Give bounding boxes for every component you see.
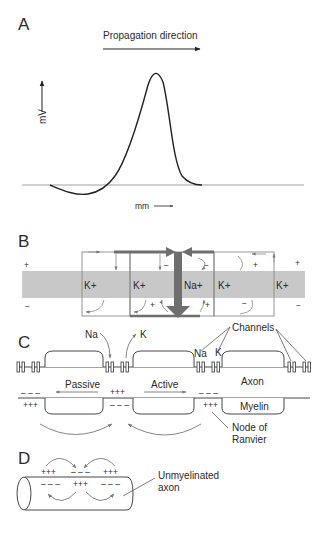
passive-label: Passive: [65, 379, 100, 390]
myelin-sheath-top: [45, 351, 103, 367]
charge-sign: −: [296, 300, 301, 310]
charge-sign: +++: [110, 387, 125, 397]
ion-label-k: K+: [276, 280, 289, 291]
ion-label-k: K+: [84, 280, 97, 291]
ion-label-na: Na+: [184, 280, 203, 291]
myelin-sheath-bottom: [133, 398, 194, 414]
propagation-direction-label: Propagation direction: [103, 30, 198, 41]
myelin-sheath-top: [133, 351, 194, 367]
myelin-sheath-top: [222, 351, 284, 367]
k-label: K: [140, 329, 147, 340]
ion-label-k: K+: [133, 280, 146, 291]
k-channel-label: K: [215, 347, 222, 358]
ion-label-k: K+: [218, 280, 231, 291]
charge-sign: −: [25, 301, 30, 311]
unmyelinated-label-line1: Unmyelinated: [158, 470, 219, 481]
myelin-label: Myelin: [240, 401, 269, 412]
current-flow-arrow-icon: [128, 424, 201, 435]
membrane-band: [22, 271, 305, 298]
charge-sign: – – –: [110, 400, 129, 410]
curved-arrow-icon: [134, 300, 146, 312]
charge-sign: – – –: [21, 388, 40, 398]
panel-a: A Propagation direction mV mm: [18, 15, 304, 211]
charge-sign: +++: [103, 467, 118, 477]
active-label: Active: [151, 379, 179, 390]
na-label: Na: [85, 329, 98, 340]
charge-sign: +: [295, 258, 300, 268]
curved-arrow-icon: [200, 300, 204, 312]
charge-sign: – – –: [199, 388, 218, 398]
charge-sign: +++: [203, 400, 218, 410]
curved-arrow-icon: [86, 300, 104, 312]
charge-sign: +: [150, 300, 155, 310]
charge-sign: +++: [73, 479, 88, 489]
na-influx-shaft: [174, 252, 182, 310]
pointer-line: [212, 412, 228, 428]
panel-b: B K+ K+ Na+ K+ K+: [18, 232, 305, 318]
charge-sign: +++: [41, 467, 56, 477]
panel-a-label: A: [18, 15, 30, 34]
unmyelinated-label-line2: axon: [158, 482, 180, 493]
node-of-ranvier-label-line1: Node of: [232, 422, 267, 433]
charge-sign: +++: [23, 400, 38, 410]
charge-sign: – – –: [101, 479, 120, 489]
charge-sign: −: [164, 260, 169, 270]
action-potential-curve: [50, 73, 202, 194]
panel-b-label: B: [18, 232, 29, 251]
charge-sign: – – –: [71, 467, 90, 477]
panel-c-label: C: [18, 333, 30, 352]
myelin-sheath-bottom: [45, 398, 103, 414]
charge-sign: −: [204, 260, 209, 270]
mm-axis-label: mm: [135, 201, 149, 211]
charge-sign: +: [205, 300, 210, 310]
channels-label: Channels: [232, 322, 274, 333]
axon-end-cap: [17, 477, 31, 510]
panel-c: C Na K Channels Na K Axon: [17, 322, 311, 445]
panel-d-label: D: [18, 449, 30, 468]
node-of-ranvier-label-line2: Ranvier: [232, 434, 267, 445]
charge-sign: +: [253, 260, 258, 270]
axon-label: Axon: [241, 376, 264, 387]
local-current-arrowhead-left-icon: [182, 247, 192, 257]
current-flow-arrow-icon: [40, 424, 112, 435]
panel-d: D +++ – – – +++ – – – +++ – – – Unmyelin…: [17, 449, 219, 510]
charge-sign: – – –: [41, 479, 60, 489]
charge-sign: +: [24, 260, 29, 270]
charge-sign: −: [242, 298, 247, 308]
neuron-propagation-figure: A Propagation direction mV mm B: [0, 0, 326, 534]
na-channel-label: Na: [194, 348, 207, 359]
curved-arrow-icon: [238, 256, 243, 270]
